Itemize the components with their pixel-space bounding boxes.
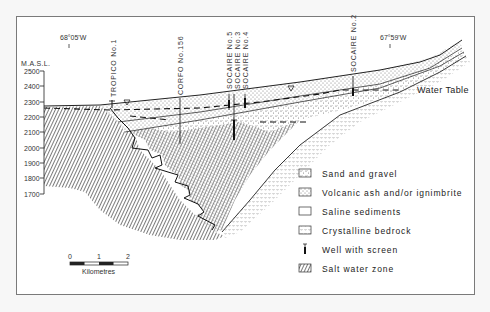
tick-1700: 1700 (24, 191, 40, 198)
coord-west: 68°05'W (60, 34, 87, 41)
tick-2400: 2400 (24, 83, 40, 90)
scale-tick-0: 0 (68, 253, 72, 260)
well-label-socaire-4: SOCAIRE No.4 (242, 31, 249, 89)
y-axis-title: M.A.S.L. (21, 60, 50, 67)
scale-tick-1: 1 (97, 253, 101, 260)
tick-1800: 1800 (24, 175, 40, 182)
legend-label-sand-gravel: Sand and gravel (322, 169, 397, 179)
legend-label-well-screen: Well with screen (322, 245, 398, 255)
water-table-label: Water Table (417, 85, 469, 95)
legend-label-saline-sediments: Saline sediments (322, 207, 401, 217)
legend-swatch-sand-gravel (299, 169, 311, 177)
well-label-socaire-5: SOCAIRE No.5 (226, 31, 233, 89)
legend: Sand and gravel Volcanic ash and/or igni… (299, 169, 462, 274)
well-screen-icon (303, 244, 307, 254)
cross-section-diagram: M.A.S.L. 2500 2400 2300 2200 2100 2000 1… (0, 0, 490, 312)
scale-unit: Kilometres (82, 268, 116, 275)
tick-2000: 2000 (24, 145, 40, 152)
tick-2200: 2200 (24, 114, 40, 121)
legend-label-salt-water: Salt water zone (322, 264, 394, 274)
tick-2500: 2500 (24, 68, 40, 75)
legend-label-crystalline-bedrock: Crystalline bedrock (322, 226, 411, 236)
tick-1900: 1900 (24, 160, 40, 167)
legend-swatch-salt-water (299, 264, 311, 272)
scale-tick-2: 2 (126, 253, 130, 260)
well-label-corfo-156: CORFO No.156 (177, 36, 184, 95)
coord-east: 67°59'W (380, 34, 407, 41)
legend-label-volcanic-ash: Volcanic ash and/or ignimbrite (322, 188, 462, 198)
well-label-socaire-3: SOCAIRE No.3 (234, 31, 241, 89)
well-label-tropico-1: TROPICO No.1 (110, 39, 117, 97)
tick-2300: 2300 (24, 99, 40, 106)
legend-swatch-crystalline-bedrock (299, 226, 311, 234)
legend-swatch-volcanic-ash (299, 188, 311, 196)
scale-bar: 0 1 2 Kilometres (68, 253, 130, 275)
tick-2100: 2100 (24, 129, 40, 136)
legend-swatch-saline-sediments (299, 207, 311, 215)
well-label-socaire-2: SOCAIRE No.2 (350, 14, 357, 72)
